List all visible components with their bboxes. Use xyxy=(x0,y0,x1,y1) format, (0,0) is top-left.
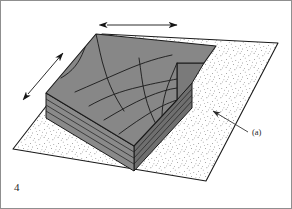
figure-frame: (a) 4 xyxy=(0,0,292,209)
part-label-a: (a) xyxy=(252,127,262,137)
figure-number: 4 xyxy=(14,182,20,193)
block-diagram: (a) xyxy=(1,1,291,208)
